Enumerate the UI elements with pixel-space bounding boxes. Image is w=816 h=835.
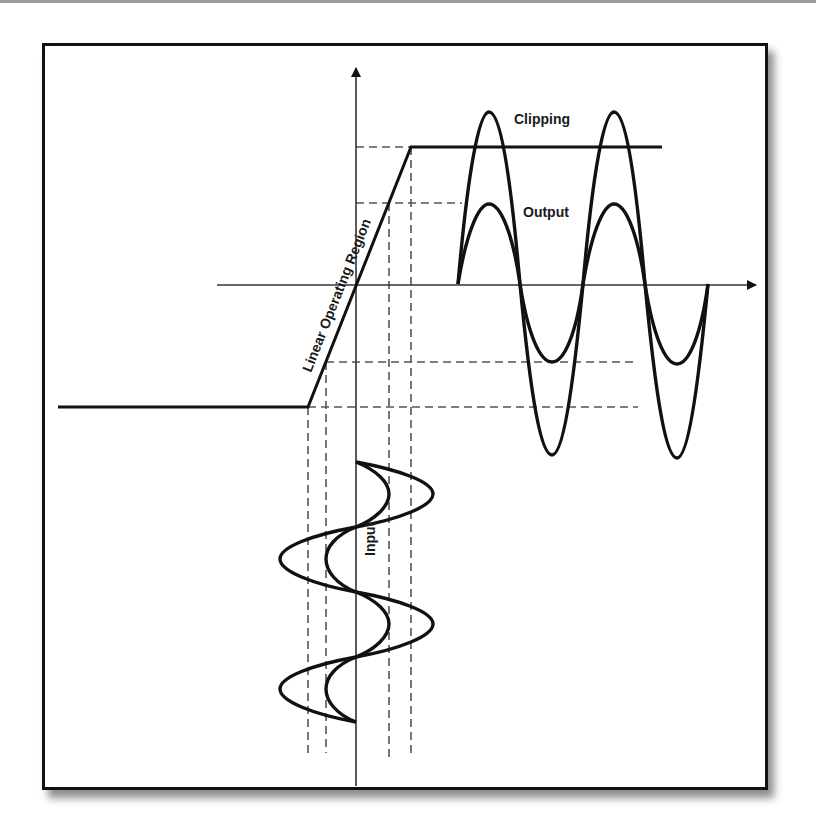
output-label: Output <box>523 204 569 220</box>
amplifier-clipping-diagram: Clipping Output Input Linear Operating R… <box>0 0 816 835</box>
transfer-curve <box>58 147 662 407</box>
linear-operating-region-label: Linear Operating Region <box>299 216 374 374</box>
output-small-wave <box>458 204 708 364</box>
diagram-page: Clipping Output Input Linear Operating R… <box>0 0 816 835</box>
axes <box>217 68 756 786</box>
clipping-label: Clipping <box>514 111 570 127</box>
input-small-wave <box>326 462 389 722</box>
input-label: Input <box>362 521 378 556</box>
